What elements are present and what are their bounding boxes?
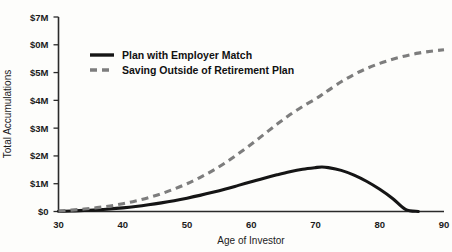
x-tick-label: 90 — [439, 219, 450, 230]
legend-label-saving-outside-of-retirement-plan: Saving Outside of Retirement Plan — [122, 64, 294, 76]
y-axis-group: $7M$0M$5M$4M$3M$2M$1M$0 — [30, 12, 58, 218]
y-tick-label: $2M — [30, 150, 49, 161]
chart-container: $7M$0M$5M$4M$3M$2M$1M$0 30405060708090 P… — [0, 0, 452, 252]
y-tick-labels: $7M$0M$5M$4M$3M$2M$1M$0 — [30, 12, 49, 218]
x-tick-label: 30 — [53, 219, 64, 230]
line-chart: $7M$0M$5M$4M$3M$2M$1M$0 30405060708090 P… — [0, 0, 452, 252]
x-tick-label: 70 — [310, 219, 321, 230]
x-tick-label: 50 — [182, 219, 193, 230]
y-tick-label: $3M — [30, 123, 49, 134]
y-axis-title: Total Accumulations — [2, 70, 13, 158]
y-tick-label: $7M — [30, 12, 49, 23]
x-axis-group: 30405060708090 — [53, 212, 449, 230]
x-tick-label: 60 — [246, 219, 257, 230]
legend-label-plan-with-employer-match: Plan with Employer Match — [122, 49, 252, 61]
y-tick-label: $0 — [38, 206, 49, 217]
legend: Plan with Employer Match Saving Outside … — [90, 49, 294, 76]
y-tick-label: $1M — [30, 178, 49, 189]
y-tick-label: $4M — [30, 95, 49, 106]
y-tick-label: $0M — [30, 39, 49, 50]
x-tick-label: 40 — [117, 219, 128, 230]
y-tick-label: $5M — [30, 67, 49, 78]
x-tick-label: 80 — [374, 219, 385, 230]
x-tick-labels: 30405060708090 — [53, 219, 449, 230]
x-axis-title: Age of Investor — [217, 235, 285, 246]
